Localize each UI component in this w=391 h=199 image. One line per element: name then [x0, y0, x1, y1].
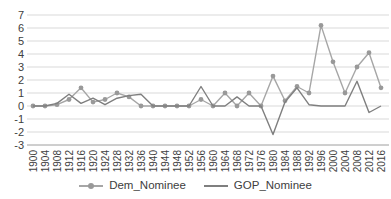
chart: -3-2-10123456719001904190819121916192019…: [0, 0, 391, 199]
x-tick-label: 1976: [256, 150, 267, 173]
data-point-marker: [79, 85, 84, 90]
y-tick-label: 6: [18, 22, 24, 34]
y-tick-label: -2: [14, 126, 24, 138]
y-tick-label: 4: [18, 48, 24, 60]
data-point-marker: [247, 91, 252, 96]
dem-line-marker-sample: [79, 185, 103, 187]
legend-label-gop-nominee: GOP_Nominee: [234, 180, 312, 192]
data-point-marker: [307, 91, 312, 96]
x-tick-label: 2008: [352, 150, 363, 173]
x-tick-label: 1988: [292, 150, 303, 173]
x-tick-label: 1916: [76, 150, 87, 173]
series-line-gop_nominee: [33, 81, 381, 134]
x-tick-label: 1904: [40, 150, 51, 173]
legend-item-dem-nominee: Dem_Nominee: [79, 180, 186, 192]
x-tick-label: 1924: [100, 150, 111, 173]
x-tick-label: 1936: [136, 150, 147, 173]
x-tick-label: 2000: [328, 150, 339, 173]
y-tick-label: 1: [18, 87, 24, 99]
x-tick-label: 1968: [232, 150, 243, 173]
x-tick-label: 1944: [160, 150, 171, 173]
x-tick-label: 1984: [280, 150, 291, 173]
x-tick-label: 1948: [172, 150, 183, 173]
x-tick-label: 1940: [148, 150, 159, 173]
x-tick-label: 1996: [316, 150, 327, 173]
data-point-marker: [331, 59, 336, 64]
x-tick-label: 1928: [112, 150, 123, 173]
data-point-marker: [379, 85, 384, 90]
data-point-marker: [199, 97, 204, 102]
x-tick-label: 1932: [124, 150, 135, 173]
data-point-marker: [343, 91, 348, 96]
x-tick-label: 1972: [244, 150, 255, 173]
y-tick-label: 3: [18, 61, 24, 73]
chart-legend: Dem_Nominee GOP_Nominee: [0, 176, 391, 196]
data-point-marker: [91, 100, 96, 105]
x-tick-label: 2004: [340, 150, 351, 173]
data-point-marker: [319, 23, 324, 28]
y-tick-label: -3: [14, 139, 24, 151]
x-tick-label: 1964: [220, 150, 231, 173]
x-tick-label: 1912: [64, 150, 75, 173]
y-tick-label: -1: [14, 113, 24, 125]
data-point-marker: [67, 97, 72, 102]
x-tick-label: 1980: [268, 150, 279, 173]
data-point-marker: [223, 91, 228, 96]
x-tick-label: 1952: [184, 150, 195, 173]
data-point-marker: [235, 104, 240, 109]
y-tick-label: 0: [18, 100, 24, 112]
y-tick-label: 7: [18, 9, 24, 21]
y-tick-label: 5: [18, 35, 24, 47]
data-point-marker: [115, 91, 120, 96]
x-tick-label: 1920: [88, 150, 99, 173]
legend-item-gop-nominee: GOP_Nominee: [204, 180, 312, 192]
x-tick-label: 1908: [52, 150, 63, 173]
data-point-marker: [103, 97, 108, 102]
data-point-marker: [139, 104, 144, 109]
x-tick-label: 1956: [196, 150, 207, 173]
x-tick-label: 2012: [364, 150, 375, 173]
data-point-marker: [271, 74, 276, 79]
x-tick-label: 1900: [28, 150, 39, 173]
y-tick-label: 2: [18, 74, 24, 86]
dem-marker-dot: [88, 183, 94, 189]
gop-line-sample: [204, 185, 228, 187]
legend-label-dem-nominee: Dem_Nominee: [109, 180, 186, 192]
data-point-marker: [355, 65, 360, 70]
data-point-marker: [367, 50, 372, 55]
x-tick-label: 1960: [208, 150, 219, 173]
series-line-dem_nominee: [33, 25, 381, 106]
x-tick-label: 2016: [376, 150, 387, 173]
x-tick-label: 1992: [304, 150, 315, 173]
chart-plot-area: -3-2-10123456719001904190819121916192019…: [0, 0, 391, 199]
